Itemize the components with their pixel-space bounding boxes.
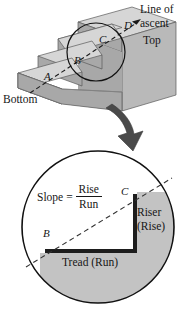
point-d-label: D [124,20,132,32]
equals-sign: = [66,191,73,203]
line-of-ascent-line1: Line of [140,2,190,16]
rise-over-run-fraction: Rise Run [76,183,102,211]
bottom-label: Bottom [3,93,38,105]
line-of-ascent-line2: ascent [140,16,190,30]
riser-label-line1: Riser [137,205,165,219]
top-label: Top [143,34,161,46]
point-c-label: C [99,34,106,46]
fraction-numerator: Rise [76,183,100,195]
fraction-denominator: Run [77,198,100,210]
line-of-ascent-label: Line ofascent [140,2,190,30]
inset-point-c-label: C [121,186,128,198]
tread-run-label: Tread (Run) [62,256,118,268]
slope-formula: Slope = Rise Run [37,183,102,211]
riser-rise-label: Riser (Rise) [137,205,165,234]
slope-staircase-figure: Line ofascent Top Bottom A B C D Slope =… [0,0,191,310]
fraction-bar [76,196,102,197]
point-a-label: A [44,71,51,83]
point-b-label: B [74,55,81,67]
slope-word: Slope [37,191,63,203]
inset-point-b-label: B [43,228,50,240]
zoom-pointer-arrow-icon [106,104,143,151]
riser-label-line2: (Rise) [137,219,165,233]
